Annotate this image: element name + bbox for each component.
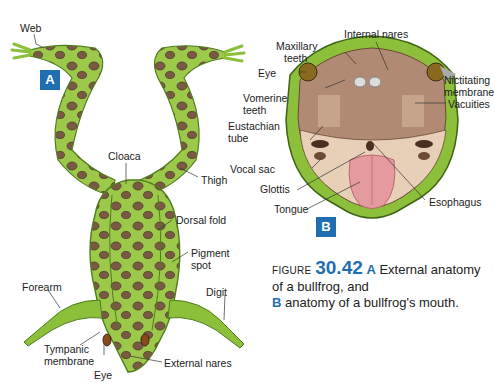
frog-mouth-anatomy: [286, 36, 458, 218]
label-eustachian-tube-line2: tube: [228, 132, 248, 144]
label-tongue: Tongue: [274, 203, 308, 215]
frog-external-anatomy: [12, 44, 244, 372]
label-maxillary-teeth-line2: teeth: [284, 52, 307, 64]
label-internal-nares: Internal nares: [344, 28, 408, 40]
panel-a-badge: A: [40, 70, 60, 90]
label-digit: Digit: [206, 286, 227, 298]
panel-b-badge: B: [316, 217, 336, 237]
label-eye-b: Eye: [258, 67, 276, 79]
label-web: Web: [20, 22, 41, 34]
figure-number: 30.42: [315, 257, 363, 278]
label-eustachian-tube-line1: Eustachian: [228, 120, 280, 132]
label-tympanic-membrane-line1: Tympanic: [44, 343, 89, 355]
label-vacuities: Vacuities: [448, 98, 490, 110]
label-pigment-spot-line1: Pigment: [191, 247, 230, 259]
label-vocal-sac: Vocal sac: [230, 163, 275, 175]
figure-30-42: A B Web Cloaca Thigh Dorsal fold Pigment…: [0, 0, 495, 388]
label-eye-a: Eye: [94, 369, 112, 381]
label-forearm: Forearm: [22, 281, 62, 293]
label-cloaca: Cloaca: [108, 150, 141, 162]
label-tympanic-membrane-line2: membrane: [44, 355, 94, 367]
bullfrog-illustration: [0, 0, 495, 388]
label-nictitating-membrane-line2: membrane: [444, 86, 494, 98]
caption-text-b: anatomy of a bullfrog's mouth.: [285, 295, 459, 310]
label-pigment-spot-line2: spot: [191, 259, 211, 271]
label-dorsal-fold: Dorsal fold: [176, 214, 226, 226]
figure-caption: Figure 30.42 A External anatomy of a bul…: [272, 260, 482, 311]
figure-word: Figure: [272, 265, 312, 276]
label-vomerine-teeth-line1: Vomerine: [243, 92, 287, 104]
label-glottis: Glottis: [260, 183, 290, 195]
label-esophagus: Esophagus: [429, 196, 482, 208]
label-vomerine-teeth-line2: teeth: [243, 104, 266, 116]
label-external-nares: External nares: [164, 357, 232, 369]
label-thigh: Thigh: [201, 174, 227, 186]
label-nictitating-membrane-line1: Nictitating: [444, 74, 490, 86]
caption-key-a: A: [366, 262, 375, 277]
caption-key-b: B: [272, 295, 281, 310]
label-maxillary-teeth-line1: Maxillary: [276, 40, 317, 52]
